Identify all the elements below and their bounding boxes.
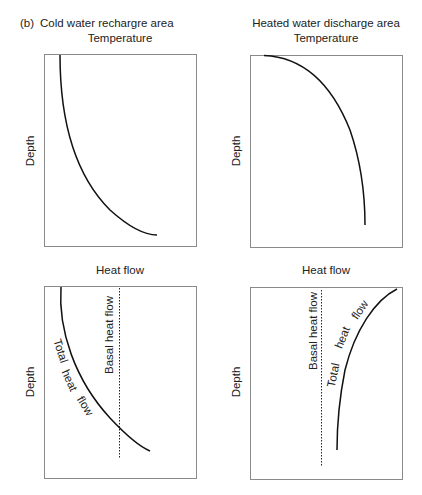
plot-frame: [251, 56, 403, 248]
panel-cold-temperature: Depth: [24, 55, 197, 247]
total-heat-flow-curve: [337, 289, 397, 450]
temperature-curve: [264, 56, 365, 226]
total-word-label: Total: [325, 362, 342, 388]
depth-axis-label: Depth: [230, 367, 242, 398]
heat-word-label: heat: [333, 324, 353, 350]
heat-word-label: heat: [60, 368, 80, 394]
temperature-curve: [60, 55, 157, 235]
diagram-canvas: Depth Depth Basal heat flow Total heat f…: [0, 0, 422, 495]
plot-frame: [45, 55, 197, 247]
panel-hot-temperature: Depth: [230, 56, 403, 248]
basal-heat-flow-label: Basal heat flow: [307, 291, 319, 370]
depth-axis-label: Depth: [24, 367, 36, 398]
panel-cold-heatflow: Basal heat flow Total heat flow Depth: [24, 287, 197, 479]
depth-axis-label: Depth: [230, 136, 242, 167]
basal-heat-flow-label: Basal heat flow: [103, 295, 115, 374]
depth-axis-label: Depth: [24, 136, 36, 167]
panel-hot-heatflow: Basal heat flow Total heat flow Depth: [230, 288, 403, 480]
